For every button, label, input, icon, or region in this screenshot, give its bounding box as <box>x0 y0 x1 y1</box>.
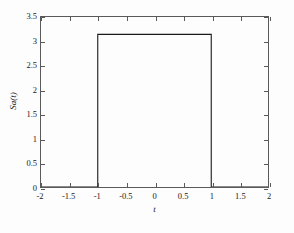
y-axis-tick <box>41 42 45 43</box>
x-axis-label: t <box>153 204 156 214</box>
x-tick-label: -1 <box>94 192 101 201</box>
x-axis-tick <box>98 183 99 187</box>
y-axis-tick <box>264 17 268 18</box>
y-axis-tick <box>41 140 45 141</box>
x-tick-label: 0.5 <box>178 192 189 201</box>
x-axis-tick <box>70 17 71 21</box>
figure-container: -2-1.5-1-0.500.511.5200.511.522.533.5 t … <box>0 0 294 233</box>
x-tick-label: 1 <box>210 192 214 201</box>
plot-axes-frame <box>40 16 269 188</box>
x-axis-tick <box>98 17 99 21</box>
y-tick-label: 1 <box>33 135 37 144</box>
y-axis-tick <box>41 115 45 116</box>
y-axis-tick <box>264 140 268 141</box>
y-axis-tick <box>264 164 268 165</box>
x-axis-tick <box>213 183 214 187</box>
y-tick-label: 2 <box>33 85 37 94</box>
y-axis-tick <box>264 91 268 92</box>
x-axis-tick <box>156 183 157 187</box>
x-tick-label: -2 <box>36 192 43 201</box>
x-axis-tick <box>70 183 71 187</box>
x-tick-label: 1.5 <box>235 192 246 201</box>
y-axis-label: Sa(t) <box>8 88 18 114</box>
plot-line-canvas <box>41 17 268 187</box>
data-series-line <box>41 34 268 187</box>
x-tick-label: 2 <box>267 192 271 201</box>
y-axis-tick <box>41 189 45 190</box>
x-axis-tick <box>41 183 42 187</box>
x-tick-label: -1.5 <box>62 192 75 201</box>
y-axis-tick <box>264 66 268 67</box>
y-axis-tick <box>264 115 268 116</box>
y-axis-tick <box>41 91 45 92</box>
y-tick-label: 1.5 <box>26 110 37 119</box>
x-axis-tick <box>127 183 128 187</box>
x-axis-tick <box>270 17 271 21</box>
x-axis-tick <box>156 17 157 21</box>
x-axis-tick <box>184 183 185 187</box>
y-tick-label: 0 <box>33 184 37 193</box>
y-tick-label: 3 <box>33 36 37 45</box>
y-axis-tick <box>41 164 45 165</box>
x-axis-tick <box>241 183 242 187</box>
x-tick-label: -0.5 <box>119 192 132 201</box>
y-tick-label: 0.5 <box>26 159 37 168</box>
x-axis-tick <box>270 183 271 187</box>
x-axis-tick <box>184 17 185 21</box>
x-axis-tick <box>213 17 214 21</box>
x-tick-label: 0 <box>152 192 156 201</box>
y-axis-tick <box>41 66 45 67</box>
x-axis-tick <box>241 17 242 21</box>
y-axis-tick <box>264 42 268 43</box>
y-tick-label: 3.5 <box>26 12 37 21</box>
x-axis-tick <box>127 17 128 21</box>
y-axis-tick <box>41 17 45 18</box>
y-axis-tick <box>264 189 268 190</box>
y-tick-label: 2.5 <box>26 61 37 70</box>
